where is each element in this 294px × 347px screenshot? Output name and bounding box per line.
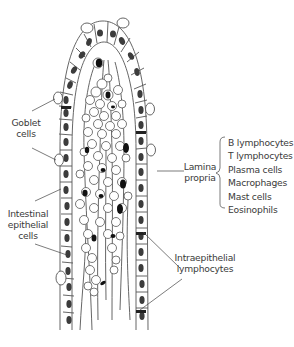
goblet-cells — [54, 18, 156, 285]
list-item: Eosinophils — [228, 203, 293, 216]
lamina-propria-cell-list: B lymphocytes T lymphocytes Plasma cells… — [228, 136, 293, 216]
list-item: T lymphocytes — [228, 149, 293, 162]
list-item: Macrophages — [228, 176, 293, 189]
intestinal-epithelial-cells-label: Intestinal epithelial cells — [2, 208, 54, 241]
list-item: Mast cells — [228, 190, 293, 203]
epithelial-nuclei — [63, 29, 144, 324]
lamina-propria-label: Lamina propria — [182, 161, 218, 183]
intraepithelial-lymphocytes-label: Intraepithelial lymphocytes — [172, 252, 238, 274]
list-item: B lymphocytes — [228, 136, 293, 149]
list-item: Plasma cells — [228, 163, 293, 176]
goblet-cells-label: Goblet cells — [6, 117, 46, 139]
